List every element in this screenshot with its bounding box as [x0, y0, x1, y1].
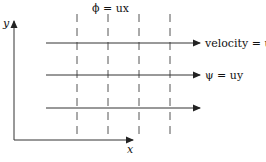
- flow-net-diagram: y x ϕ = ux velocity = u ψ = uy: [0, 0, 266, 162]
- potential-label: ϕ = ux: [92, 2, 130, 15]
- x-axis-label: x: [127, 143, 134, 156]
- streamlines: [46, 43, 200, 108]
- y-axis-label: y: [2, 17, 10, 30]
- stream-function-label: ψ = uy: [205, 69, 244, 82]
- velocity-label: velocity = u: [204, 37, 266, 50]
